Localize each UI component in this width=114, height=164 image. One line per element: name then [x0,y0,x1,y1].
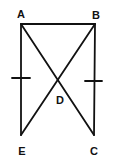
geometry-diagram: A B D E C [0,0,114,164]
label-a: A [17,8,25,20]
label-b: B [92,9,100,21]
segment-bc [94,24,95,135]
label-d: D [56,94,64,106]
label-e: E [18,145,25,157]
label-c: C [90,145,98,157]
